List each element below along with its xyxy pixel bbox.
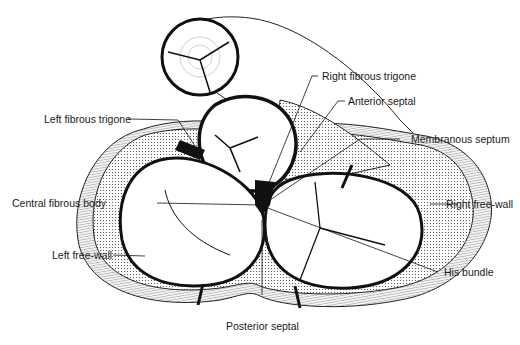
label-membranous-septum: Membranous septum <box>411 133 510 145</box>
label-left-free-wall: Left free-wall <box>52 249 112 261</box>
label-anterior-septal: Anterior septal <box>348 95 416 107</box>
label-central-fibrous-body: Central fibrous body <box>12 197 106 209</box>
tricuspid-valve <box>265 173 422 288</box>
pulmonary-valve <box>162 19 238 95</box>
label-left-fibrous-trigone: Left fibrous trigone <box>44 113 131 125</box>
label-posterior-septal: Posterior septal <box>226 320 299 332</box>
label-right-fibrous-trigone: Right fibrous trigone <box>322 70 416 82</box>
label-his-bundle: His bundle <box>444 266 494 278</box>
label-right-free-wall: Right free-wall <box>446 198 513 210</box>
heart-valve-diagram <box>0 0 520 345</box>
